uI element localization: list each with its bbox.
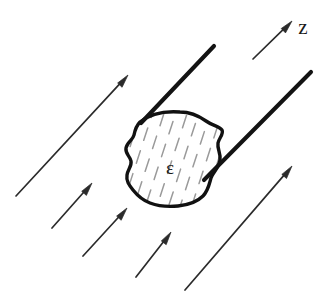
arrow-shaft <box>52 189 87 228</box>
field-arrow-z-axis <box>253 21 292 59</box>
hatch-stroke <box>258 135 296 253</box>
field-arrow-bottom-center <box>136 232 171 277</box>
dielectric-region-fill <box>126 112 223 207</box>
hatch-stroke <box>268 138 306 256</box>
hatch-stroke <box>80 77 118 195</box>
axis-label-z: z <box>298 15 307 39</box>
hatch-stroke <box>38 64 76 182</box>
hatch-stroke <box>90 81 128 199</box>
hatch-stroke <box>237 128 275 246</box>
hatch-stroke <box>226 125 264 243</box>
field-arrow-mid-left <box>52 183 92 228</box>
figure-canvas: z ε <box>0 0 332 302</box>
field-arrow-lower-left <box>83 208 127 256</box>
arrow-shaft <box>83 214 122 256</box>
field-arrow-upper-left <box>16 75 128 196</box>
arrow-shaft <box>136 238 166 277</box>
diagram-svg: z ε <box>0 0 332 302</box>
hatch-stroke <box>247 132 285 250</box>
arrow-head <box>281 21 292 33</box>
arrow-shaft <box>253 26 286 59</box>
dielectric-constant-label: ε <box>166 157 174 178</box>
lower-tangent-ray <box>204 72 311 180</box>
arrow-shaft <box>16 81 123 196</box>
